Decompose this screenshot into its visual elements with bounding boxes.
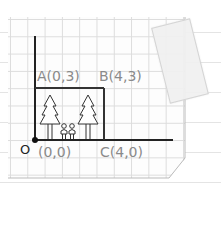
origin-label: O xyxy=(20,142,30,157)
person-icon xyxy=(61,124,67,139)
pine-tree-icon xyxy=(78,95,98,139)
point-a-label: A(0,3) xyxy=(37,68,80,84)
person-icon xyxy=(69,124,75,139)
pine-tree-icon xyxy=(40,95,60,139)
point-c-label: C(4,0) xyxy=(100,144,143,160)
origin-dot xyxy=(32,137,38,143)
origin-coords-label: (0,0) xyxy=(38,144,71,160)
point-b-label: B(4,3) xyxy=(99,68,142,84)
